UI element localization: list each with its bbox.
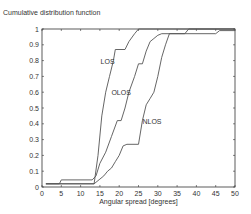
x-tick-label: 5: [59, 190, 63, 197]
cdf-chart: Cumulative distribution function 0510152…: [0, 0, 251, 214]
x-tick-label: 35: [173, 190, 181, 197]
x-tick-label: 45: [212, 190, 220, 197]
y-tick-label: 0.7: [29, 73, 39, 80]
series-label-los: LOS: [101, 58, 115, 65]
axes: 0510152025303540455000.10.20.30.40.50.60…: [29, 26, 239, 198]
plot-frame: [42, 29, 235, 187]
series-line-los: [46, 29, 235, 184]
y-tick-label: 0.4: [29, 120, 39, 127]
x-tick-label: 15: [96, 190, 104, 197]
series-line-olos: [46, 29, 235, 184]
x-tick-label: 0: [40, 190, 44, 197]
y-tick-label: 0.5: [29, 105, 39, 112]
y-tick-label: 0.8: [29, 57, 39, 64]
series-line-nlos: [46, 31, 235, 184]
chart-title: Cumulative distribution function: [3, 9, 100, 16]
x-tick-label: 25: [135, 190, 143, 197]
y-tick-label: 0.6: [29, 89, 39, 96]
x-tick-label: 20: [115, 190, 123, 197]
x-axis-label: Angular spread [degrees]: [99, 198, 178, 206]
y-tick-label: 1: [35, 26, 39, 33]
series-label-olos: OLOS: [111, 89, 131, 96]
y-tick-label: 0: [35, 184, 39, 191]
x-tick-label: 10: [77, 190, 85, 197]
y-tick-label: 0.9: [29, 41, 39, 48]
y-tick-label: 0.2: [29, 152, 39, 159]
x-tick-label: 40: [193, 190, 201, 197]
y-tick-label: 0.1: [29, 168, 39, 175]
chart-container: Cumulative distribution function 0510152…: [0, 0, 251, 214]
series-group: LOSOLOSNLOS: [46, 29, 235, 184]
x-tick-label: 30: [154, 190, 162, 197]
series-label-nlos: NLOS: [142, 118, 161, 125]
y-tick-label: 0.3: [29, 136, 39, 143]
x-tick-label: 50: [231, 190, 239, 197]
